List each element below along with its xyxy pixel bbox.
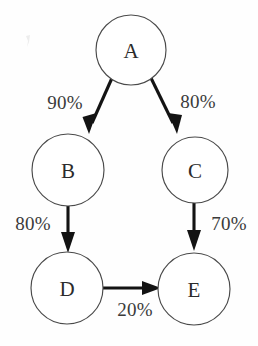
node-b[interactable]: B [32,134,104,206]
node-d-label: D [59,277,74,301]
node-e-label: E [188,278,201,302]
node-b-label: B [61,159,75,183]
graph-svg: A B C D E 90% 80% 80% 70% 20% [0,0,258,346]
scan-artifact-speck [26,35,30,47]
edge-a-c [151,78,182,134]
node-a-label: A [123,39,139,63]
edge-label-a-b: 90% [47,92,82,113]
node-d[interactable]: D [31,252,103,324]
node-c[interactable]: C [162,137,228,203]
edge-a-c-arrowhead [168,113,182,134]
edge-label-d-e: 20% [117,299,152,320]
edge-d-e [103,281,161,295]
edge-c-e-arrowhead [187,230,201,251]
node-a[interactable]: A [96,15,166,85]
diagram-canvas: A B C D E 90% 80% 80% 70% 20% [0,0,258,346]
edge-b-d-arrowhead [61,232,75,253]
edge-label-b-d: 80% [15,213,50,234]
node-c-label: C [188,159,202,183]
edge-label-a-c: 80% [180,91,215,112]
edge-a-b [83,78,113,134]
node-e[interactable]: E [158,253,230,325]
edge-label-c-e: 70% [211,213,246,234]
edge-b-d [61,206,75,253]
edge-a-b-arrowhead [83,113,97,134]
edge-c-e [187,203,201,251]
